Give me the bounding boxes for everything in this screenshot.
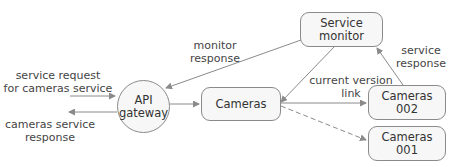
label-cameras-service-response: cameras service response (4, 118, 96, 144)
node-service-monitor: Service monitor (300, 12, 383, 47)
label-service-response: service response (390, 44, 452, 70)
edge-cameras-to-001 (281, 106, 366, 140)
node-api-gateway: API gateway (117, 80, 170, 133)
label-monitor-response: monitor response (185, 39, 245, 65)
node-cameras: Cameras (201, 87, 281, 121)
label-monitor-response-line2: response (185, 52, 245, 65)
label-service-request-line2: for cameras service (2, 82, 114, 95)
label-service-request: service request for cameras service (2, 69, 114, 95)
node-api-gateway-line2: gateway (119, 107, 168, 120)
label-monitor-response-line1: monitor (185, 39, 245, 52)
label-service-response-line2: response (390, 57, 452, 70)
label-current-version-link-line2: link (303, 87, 399, 100)
label-cameras-service-response-line2: response (4, 131, 96, 144)
label-service-response-line1: service (390, 44, 452, 57)
node-cameras-label: Cameras (215, 98, 266, 111)
label-cameras-service-response-line1: cameras service (4, 118, 96, 131)
node-service-monitor-line1: Service (320, 17, 363, 30)
label-current-version-link-line1: current version (303, 74, 399, 87)
node-api-gateway-line1: API (134, 94, 152, 107)
label-service-request-line1: service request (2, 69, 114, 82)
node-cameras-001-line2: 001 (396, 144, 418, 157)
node-service-monitor-line2: monitor (319, 30, 364, 43)
label-current-version-link: current version link (303, 74, 399, 100)
node-cameras-001-line1: Cameras (381, 131, 432, 144)
node-cameras-001: Cameras 001 (368, 126, 446, 161)
node-cameras-002-line2: 002 (396, 103, 418, 116)
